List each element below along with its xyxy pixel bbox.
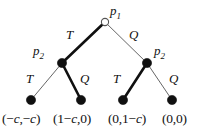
payoff-variable-c: c <box>136 111 142 126</box>
tree-node-leaf3 <box>118 95 127 104</box>
tree-edge-root-Q <box>105 22 147 63</box>
player-label-left: p2 <box>33 44 44 61</box>
action-label-left-T: T <box>26 72 33 85</box>
player-label-right: p2 <box>154 44 165 61</box>
player-label-subscript: 1 <box>117 11 122 21</box>
payoff-label-payoff2: (1−c,0) <box>53 112 91 126</box>
tree-node-leaf1 <box>26 95 35 104</box>
tree-node-root <box>101 18 108 25</box>
payoff-label-payoff4: (0,0) <box>162 112 187 126</box>
tree-edge-left-T <box>31 63 62 100</box>
tree-node-leaf2 <box>76 95 85 104</box>
tree-node-left <box>57 58 66 67</box>
tree-edge-right-T <box>123 63 147 100</box>
action-label-right-Q: Q <box>169 72 178 85</box>
player-label-subscript: 2 <box>40 51 45 61</box>
payoff-variable-c: c <box>30 111 36 126</box>
payoff-variable-c: c <box>14 111 20 126</box>
tree-node-leaf4 <box>167 95 176 104</box>
payoff-label-payoff3: (0,1−c) <box>108 112 146 126</box>
action-label-root-T: T <box>66 28 73 41</box>
node-layer <box>26 18 176 104</box>
action-label-left-Q: Q <box>80 72 89 85</box>
player-label-root: p1 <box>110 4 121 21</box>
payoff-label-payoff1: (−c,−c) <box>2 112 40 126</box>
game-tree-diagram: TQTQTQp1p2p2(−c,−c)(1−c,0)(0,1−c)(0,0) <box>0 0 211 134</box>
player-label-subscript: 2 <box>161 51 166 61</box>
tree-edge-left-Q <box>62 63 81 100</box>
payoff-variable-c: c <box>71 111 77 126</box>
tree-node-right <box>142 58 151 67</box>
action-label-root-Q: Q <box>129 28 138 41</box>
action-label-right-T: T <box>113 72 120 85</box>
